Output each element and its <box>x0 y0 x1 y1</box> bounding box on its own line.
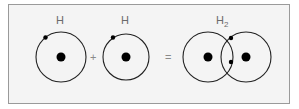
hydrogen-bond-diagram: H + H = H2 <box>0 0 299 109</box>
shared-electron-bottom <box>229 60 233 64</box>
molecule-nucleus-left <box>204 53 213 62</box>
atom2-nucleus <box>122 53 131 62</box>
atom1-label: H <box>56 14 64 26</box>
atom2-electron <box>111 35 115 39</box>
shared-electron-top <box>229 36 233 40</box>
hydrogen-atom-1: H <box>36 14 86 82</box>
atom1-electron <box>43 35 47 39</box>
equals-sign: = <box>165 51 171 63</box>
atom1-nucleus <box>57 53 66 62</box>
hydrogen-molecule: H2 <box>183 14 271 82</box>
atom2-label: H <box>121 14 129 26</box>
molecule-nucleus-right <box>242 53 251 62</box>
hydrogen-atom-2: H <box>103 14 149 80</box>
plus-sign: + <box>90 51 96 63</box>
molecule-label: H2 <box>216 14 229 29</box>
